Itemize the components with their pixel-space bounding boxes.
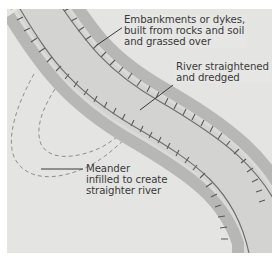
label-straightened-line1: River straightened [176,61,269,72]
label-meander-line3: straighter river [86,185,167,196]
label-embankments: Embankments or dykes, built from rocks a… [122,14,247,48]
diagram-frame: Embankments or dykes, built from rocks a… [7,9,272,253]
label-embankments-line3: and grassed over [124,36,245,47]
label-meander-line1: Meander [86,163,167,174]
label-embankments-line2: built from rocks and soil [124,25,245,36]
label-straightened: River straightened and dredged [174,61,271,83]
label-embankments-line1: Embankments or dykes, [124,14,245,25]
label-meander: Meander infilled to create straighter ri… [86,163,167,197]
label-straightened-line2: and dredged [176,72,269,83]
label-meander-line2: infilled to create [86,174,167,185]
